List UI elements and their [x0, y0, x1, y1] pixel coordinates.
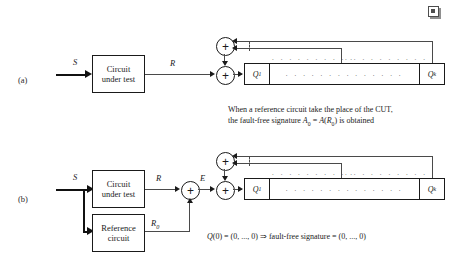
reference-line1-b: Reference [101, 223, 135, 233]
arrowhead-feedback-inner-a [232, 45, 237, 51]
signal-label-r-b: R [156, 173, 161, 183]
caption-line1-a: When a reference circuit take the place … [228, 104, 393, 116]
signal-label-r0-b: R0 [151, 218, 159, 230]
shift-register-b: Q1 . . . . . . . . . . . . . . Qk [244, 178, 445, 200]
feedback-tap-outer-horizontal-a [236, 41, 432, 42]
arrowhead-register-in-a [238, 71, 243, 77]
wire-s-trunk-b [56, 189, 84, 191]
arrowhead-r0-xor-b [187, 198, 193, 203]
wire-s-split-b [83, 189, 85, 232]
feedback-tap-outer-vertical-a [432, 41, 433, 63]
register-cell-last-b: Qk [419, 179, 444, 199]
wire-r0-horizontal-b [145, 231, 190, 232]
signal-label-s-a: S [73, 57, 77, 67]
feedback-tap-inner-vertical-b [341, 163, 342, 178]
feedback-tap-inner-vertical-a [341, 48, 342, 63]
arrowhead-feedback-outer-b [232, 153, 237, 159]
tap-dots-left-a: . . . . . . . . . . [272, 54, 355, 62]
xor-gate-input-a: + [216, 66, 235, 85]
caption-line2-a: the fault-free signature A0 = A(R0) is o… [228, 115, 374, 128]
shift-register-a: Q1 . . . . . . . . . . . . . . Qk [244, 63, 445, 85]
tap-dots-left-b: . . . . . . . . . . [272, 169, 355, 177]
cut-line2-b: under test [102, 189, 135, 199]
arrowhead-feedback-inner-b [232, 160, 237, 166]
register-cell-first-b: Q1 [245, 179, 270, 199]
arrowhead-r-xor-a [210, 71, 215, 77]
wire-s-to-cut-a [56, 74, 86, 76]
caption-q-args-b: (0) = (0, ..., 0) [213, 232, 260, 241]
cut-line1-b: Circuit [107, 179, 131, 189]
omitted-taps-tick-b [249, 156, 250, 166]
wire-r-b [145, 189, 178, 190]
caption-prefix-a: the fault-free signature [228, 116, 303, 125]
wire-r-a [145, 74, 212, 75]
register-cell-last-sub-b: k [434, 186, 437, 192]
arrowhead-e-xor-b [210, 186, 215, 192]
caption-b: Q(0) = (0, ..., 0) ⇒ fault-free signatur… [207, 231, 366, 243]
signal-label-r-a: R [170, 58, 175, 68]
square-placeholder-icon [428, 6, 439, 17]
arrowhead-feedback-down-a [222, 61, 228, 66]
reference-line2-b: circuit [108, 233, 130, 243]
caption-eq-a: = [311, 116, 320, 125]
caption-tail-b: fault-free signature = (0, ..., 0) [267, 232, 366, 241]
omitted-taps-tick-a [249, 41, 250, 51]
register-cell-last-a: Qk [419, 64, 444, 84]
feedback-tap-outer-vertical-b [432, 156, 433, 178]
tap-dots-right-b: . . . . . . . . . . [345, 169, 428, 177]
arrowhead-s-cut-a [85, 70, 92, 78]
register-middle-dots-a: . . . . . . . . . . . . . . [270, 64, 419, 84]
cut-line2-a: under test [102, 74, 135, 84]
cut-line1-a: Circuit [107, 64, 131, 74]
signal-label-e-b: E [200, 173, 205, 183]
arrowhead-register-in-b [238, 186, 243, 192]
panel-label-b: (b) [18, 194, 28, 204]
implies-symbol-b: ⇒ [260, 232, 267, 241]
caption-suffix-a: is obtained [337, 116, 374, 125]
arrowhead-r-xor-b [175, 186, 180, 192]
register-cell-last-sub-a: k [434, 71, 437, 77]
panel-label-a: (a) [18, 75, 27, 85]
xor-gate-input-b: + [216, 181, 235, 200]
register-cell-first-sub-b: 1 [258, 186, 261, 192]
block-circuit-under-test-a: Circuit under test [92, 55, 145, 93]
block-reference-circuit-b: Reference circuit [92, 214, 145, 252]
feedback-tap-inner-horizontal-b [236, 163, 341, 164]
signal-label-s-b: S [73, 172, 77, 182]
signal-r0-sub-b: 0 [156, 224, 159, 230]
register-cell-first-sub-a: 1 [258, 71, 261, 77]
wire-r0-vertical-b [189, 202, 190, 231]
arrowhead-feedback-outer-a [232, 38, 237, 44]
register-middle-dots-b: . . . . . . . . . . . . . . [270, 179, 419, 199]
block-circuit-under-test-b: Circuit under test [92, 170, 145, 208]
arrowhead-feedback-down-b [222, 176, 228, 181]
register-cell-first-a: Q1 [245, 64, 270, 84]
tap-dots-right-a: . . . . . . . . . . [345, 54, 428, 62]
feedback-tap-outer-horizontal-b [236, 156, 432, 157]
figure-canvas: (a) S Circuit under test R + + Q1 . . . … [0, 0, 454, 261]
feedback-tap-inner-horizontal-a [236, 48, 341, 49]
